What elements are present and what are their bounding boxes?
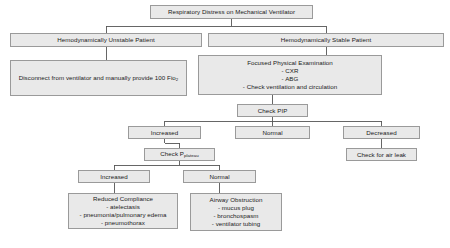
node-respiratory-distress[interactable]: Respiratory Distress on Mechanical Venti…	[150, 5, 313, 19]
node-label: Decreased	[366, 129, 396, 137]
node-label-text: Check P	[160, 150, 184, 157]
node-label: Check for air leak	[357, 151, 406, 159]
node-hemodynamically-unstable-patient[interactable]: Hemodynamically Unstable Patient	[10, 33, 202, 47]
node-item-cxr: - CXR	[281, 67, 298, 75]
node-pip-normal[interactable]: Normal	[235, 126, 310, 139]
node-label: Check Pplateau	[160, 150, 199, 159]
node-label: Disconnect from ventilator and manually …	[19, 74, 179, 83]
node-item-check-ventilation: - Check ventilation and circulation	[243, 83, 337, 91]
node-item-pneumonia: - pneumonia/pulmonary edema	[80, 211, 167, 219]
node-item-pneumothorax: - pneumothorax	[101, 219, 145, 227]
node-label: Increased	[100, 173, 128, 181]
node-check-p-plateau[interactable]: Check Pplateau	[144, 148, 215, 161]
node-pip-increased[interactable]: Increased	[128, 126, 201, 139]
node-item-abg: - ABG	[282, 75, 299, 83]
node-pip-decreased[interactable]: Decreased	[343, 126, 420, 139]
node-label-text: Disconnect from ventilator and manually …	[19, 74, 176, 81]
node-item-atelectasis: - atelectasis	[106, 203, 140, 211]
node-heading: Focused Physical Examination	[247, 59, 333, 67]
node-label: Increased	[151, 129, 179, 137]
flowchart-canvas: Respiratory Distress on Mechanical Venti…	[0, 0, 450, 248]
node-check-pip[interactable]: Check PIP	[237, 104, 308, 117]
node-heading: Reduced Compliance	[93, 195, 153, 203]
node-label: Hemodynamically Unstable Patient	[57, 36, 155, 44]
node-label: Check PIP	[258, 107, 288, 115]
node-check-for-air-leak[interactable]: Check for air leak	[346, 148, 417, 161]
node-item-ventilator-tubing: - ventilator tubing	[212, 220, 260, 228]
node-item-mucus-plug: - mucus plug	[218, 204, 254, 212]
node-hemodynamically-stable-patient[interactable]: Hemodynamically Stable Patient	[208, 33, 444, 47]
node-item-bronchospasm: - bronchospasm	[213, 212, 258, 220]
fio2-subscript: 2	[176, 77, 179, 82]
node-airway-obstruction[interactable]: Airway Obstruction - mucus plug - bronch…	[190, 193, 282, 231]
node-plateau-normal[interactable]: Normal	[183, 170, 256, 183]
node-label: Normal	[262, 129, 282, 137]
node-heading: Airway Obstruction	[210, 196, 263, 204]
node-label: Hemodynamically Stable Patient	[281, 36, 372, 44]
node-disconnect-from-ventilator[interactable]: Disconnect from ventilator and manually …	[10, 60, 187, 96]
plateau-subscript: plateau	[184, 153, 199, 158]
node-label: Normal	[209, 173, 229, 181]
node-label: Respiratory Distress on Mechanical Venti…	[168, 8, 295, 16]
node-plateau-increased[interactable]: Increased	[78, 170, 150, 183]
node-reduced-compliance[interactable]: Reduced Compliance - atelectasis - pneum…	[68, 193, 178, 229]
node-focused-physical-examination[interactable]: Focused Physical Examination - CXR - ABG…	[198, 55, 382, 95]
